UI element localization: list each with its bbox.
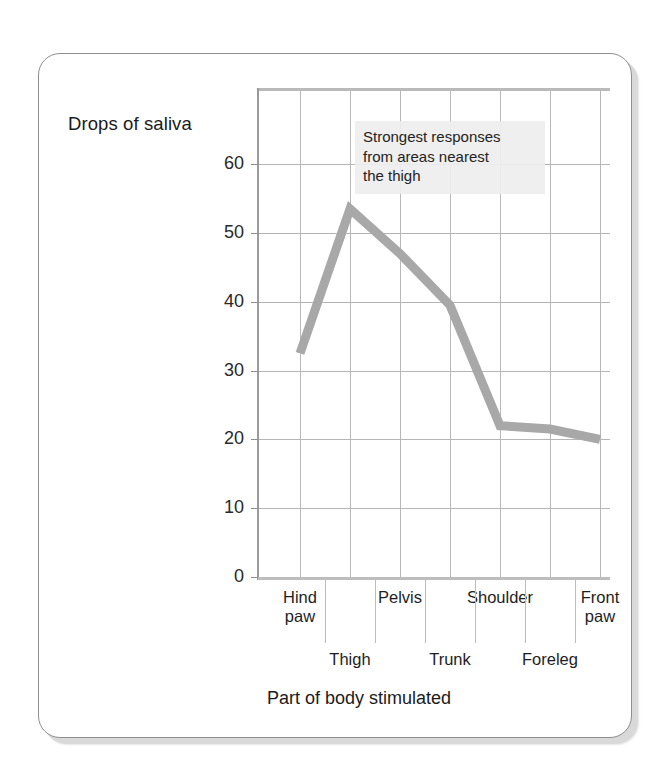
x-tick-label-line1: Pelvis (378, 588, 422, 606)
x-tick-label-line1: Thigh (329, 650, 370, 668)
y-tick-label: 50 (198, 222, 244, 243)
x-tick-label: Thigh (300, 650, 400, 669)
x-tick-label: Foreleg (500, 650, 600, 669)
x-tick-label-line1: Shoulder (467, 588, 533, 606)
x-tick-label-line1: Foreleg (522, 650, 578, 668)
x-axis-separator-tick (575, 580, 576, 643)
y-tick-mark (251, 371, 258, 372)
y-tick-mark (251, 577, 258, 578)
annotation-line-2: from areas nearest (363, 147, 537, 167)
x-tick-label-line1: Hind (283, 588, 317, 606)
y-tick-label: 20 (198, 428, 244, 449)
x-tick-label: Pelvis (350, 588, 450, 607)
figure-root: Drops of saliva 6050403020100 Strongest … (0, 0, 666, 778)
x-tick-label-line1: Trunk (429, 650, 471, 668)
x-axis-caption-text: Part of body stimulated (267, 688, 451, 708)
x-axis-separator-tick (475, 580, 476, 643)
y-axis-caption: Drops of saliva (68, 113, 192, 135)
x-axis-separator-tick (525, 580, 526, 643)
y-tick-label: 40 (198, 291, 244, 312)
y-tick-mark (251, 233, 258, 234)
y-tick-mark (251, 302, 258, 303)
series-line (300, 209, 600, 439)
x-tick-label: Hindpaw (250, 588, 350, 626)
x-tick-label: Shoulder (450, 588, 550, 607)
y-tick-mark (251, 164, 258, 165)
y-tick-mark (251, 508, 258, 509)
y-tick-label: 60 (198, 153, 244, 174)
y-tick-label: 0 (198, 566, 244, 587)
x-tick-label-line1: Front (581, 588, 620, 606)
y-tick-label: 10 (198, 497, 244, 518)
x-tick-label-line2: paw (250, 607, 350, 626)
x-axis-separator-tick (375, 580, 376, 643)
x-tick-label: Frontpaw (550, 588, 650, 626)
annotation-callout: Strongest responses from areas nearest t… (355, 121, 545, 194)
x-tick-label-line2: paw (550, 607, 650, 626)
annotation-line-1: Strongest responses (363, 127, 537, 147)
x-axis-separator-tick (425, 580, 426, 643)
x-axis-separator-tick (325, 580, 326, 643)
y-tick-label: 30 (198, 360, 244, 381)
x-tick-label: Trunk (400, 650, 500, 669)
x-axis-caption: Part of body stimulated (0, 688, 666, 709)
y-tick-mark (251, 439, 258, 440)
annotation-line-3: the thigh (363, 166, 537, 186)
